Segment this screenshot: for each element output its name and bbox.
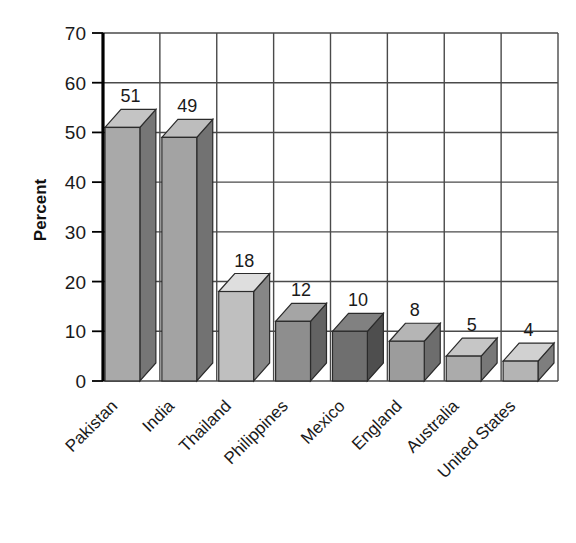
bar-front-face (333, 331, 368, 381)
bar-value-label: 12 (291, 280, 311, 300)
bar-india (162, 119, 213, 381)
bar-value-label: 10 (348, 290, 368, 310)
chart-background (0, 0, 576, 543)
y-tick-label: 0 (75, 371, 86, 392)
bar-value-label: 51 (120, 86, 140, 106)
bar-mexico (333, 313, 384, 381)
bar-front-face (503, 361, 538, 381)
bar-pakistan (105, 109, 156, 381)
y-tick-label: 10 (65, 321, 86, 342)
bar-value-label: 5 (467, 315, 477, 335)
chart-canvas: 010203040506070 5149181210854 PakistanIn… (0, 0, 576, 543)
bar-value-label: 8 (410, 300, 420, 320)
y-tick-label: 60 (65, 73, 86, 94)
bar-philippines (276, 303, 327, 381)
bar-chart: 010203040506070 5149181210854 PakistanIn… (0, 0, 576, 543)
bar-value-label: 49 (177, 96, 197, 116)
bar-side-face (197, 119, 213, 381)
bar-side-face (140, 109, 156, 381)
bar-front-face (162, 137, 197, 381)
y-tick-label: 50 (65, 122, 86, 143)
bar-front-face (105, 127, 140, 381)
y-axis-title: Percent (31, 178, 50, 241)
bar-front-face (219, 292, 254, 381)
bar-value-label: 4 (524, 320, 534, 340)
y-tick-label: 30 (65, 222, 86, 243)
bar-thailand (219, 274, 270, 381)
bar-front-face (446, 356, 481, 381)
bar-value-label: 18 (234, 251, 254, 271)
bar-england (389, 323, 440, 381)
bar-front-face (276, 321, 311, 381)
y-tick-label: 20 (65, 272, 86, 293)
bar-front-face (389, 341, 424, 381)
y-tick-label: 40 (65, 172, 86, 193)
y-tick-label: 70 (65, 23, 86, 44)
